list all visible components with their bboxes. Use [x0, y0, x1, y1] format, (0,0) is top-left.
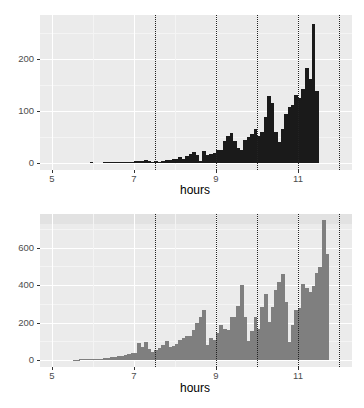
reference-line-dotted	[339, 214, 340, 367]
grid-line-minor	[40, 266, 352, 267]
reference-line-dotted	[155, 214, 156, 367]
y-tick-label: 200	[4, 317, 34, 328]
x-tick-label: 5	[42, 370, 62, 381]
y-tick-label: 0	[4, 354, 34, 365]
x-tick-label: 7	[124, 370, 144, 381]
x-axis-label: hours	[155, 381, 235, 395]
grid-line-major	[40, 360, 352, 361]
x-tick-label: 11	[288, 370, 308, 381]
grid-line-major	[134, 214, 135, 367]
reference-line-dotted	[298, 214, 299, 367]
y-tick	[37, 360, 40, 361]
grid-line-minor	[93, 214, 94, 367]
x-tick-label: 9	[206, 370, 226, 381]
y-tick-label: 400	[4, 279, 34, 290]
grid-line-major	[40, 248, 352, 249]
plot-panel	[40, 214, 352, 367]
y-tick	[37, 285, 40, 286]
grid-line-major	[52, 214, 53, 367]
y-tick	[37, 323, 40, 324]
histogram-bar	[325, 254, 329, 360]
grid-line-major	[40, 285, 352, 286]
panel-top-band	[40, 214, 352, 224]
reference-line-dotted	[257, 214, 258, 367]
grid-line-minor	[40, 229, 352, 230]
reference-line-dotted	[216, 214, 217, 367]
y-tick	[37, 248, 40, 249]
histogram-bottom: hours 020040060057911	[0, 0, 364, 408]
y-tick-label: 600	[4, 242, 34, 253]
